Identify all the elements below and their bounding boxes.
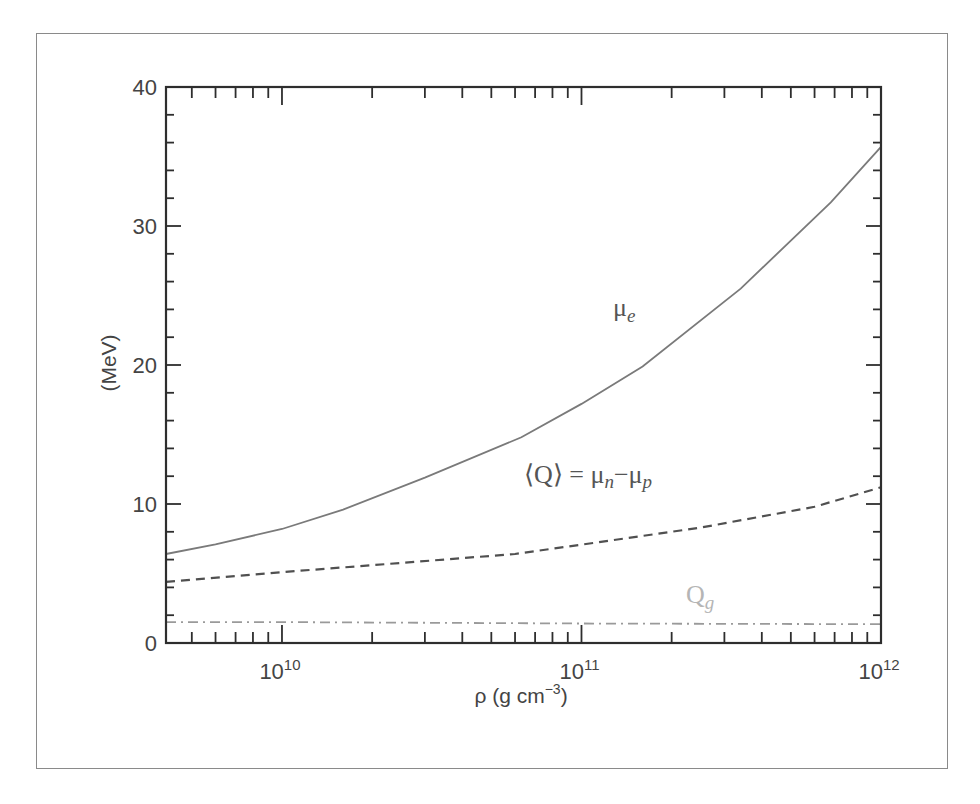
plot-area-border (166, 87, 881, 643)
y-tick-label: 0 (145, 631, 157, 656)
curve-labels: μe⟨Q⟩ = μn−μpQg (524, 293, 714, 613)
axes: 010203040101010111012ρ (g cm−3)(MeV) (97, 75, 900, 707)
series-line-0 (166, 147, 881, 554)
chart: 010203040101010111012ρ (g cm−3)(MeV) μe⟨… (0, 0, 980, 804)
series-line-2 (166, 622, 881, 624)
series-line-1 (166, 487, 881, 582)
data-series-group (166, 147, 881, 624)
x-tick-label: 1012 (858, 656, 899, 684)
x-tick-label: 1010 (259, 656, 300, 684)
y-axis-title: (MeV) (97, 334, 120, 391)
series-label-2: Qg (686, 580, 714, 613)
series-label-0: μe (613, 293, 635, 326)
y-tick-label: 10 (133, 492, 157, 517)
y-tick-label: 30 (133, 214, 157, 239)
x-axis-title: ρ (g cm−3) (474, 681, 567, 707)
y-tick-label: 40 (133, 75, 157, 100)
figure-caption-truncated (12, 797, 572, 804)
x-tick-label: 1011 (559, 656, 599, 684)
y-tick-label: 20 (133, 353, 157, 378)
series-label-1: ⟨Q⟩ = μn−μp (524, 460, 652, 492)
